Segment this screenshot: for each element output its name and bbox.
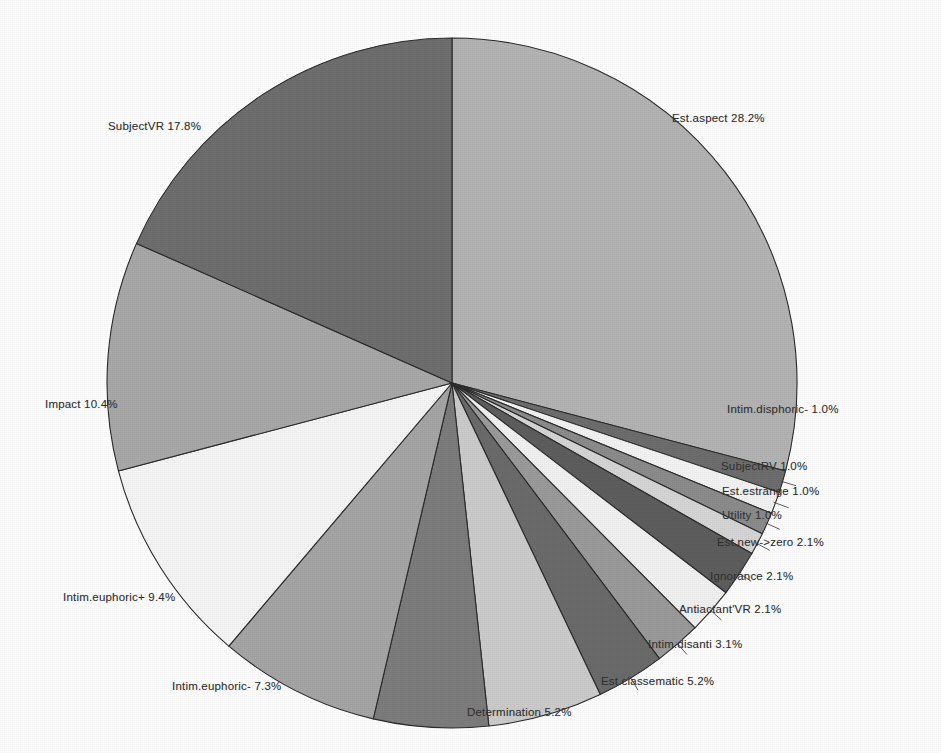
pie-label-intim-disanti: Intim.disanti 3.1%	[648, 639, 742, 651]
pie-label-impact: Impact 10.4%	[45, 399, 118, 411]
pie-label-est-new-zero: Est.new->zero 2.1%	[717, 537, 824, 549]
pie-label-ignorance: Ignorance 2.1%	[710, 571, 793, 583]
pie-label-est-aspect: Est.aspect 28.2%	[672, 113, 765, 125]
pie-label-determination: Determination 5.2%	[467, 707, 572, 719]
pie-chart-figure: Est.aspect 28.2% SubjectVR 17.8% Impact …	[0, 0, 941, 753]
pie-label-est-estrange: Est.estrange 1.0%	[722, 486, 819, 498]
pie-label-est-classematic: Est.classematic 5.2%	[601, 676, 714, 688]
pie-slices-group	[107, 38, 797, 728]
pie-leader-line	[765, 523, 780, 530]
pie-label-utility: Utility 1.0%	[722, 510, 782, 522]
pie-leader-line	[774, 502, 789, 508]
pie-label-intim-euphoric-minus: Intim.euphoric- 7.3%	[172, 681, 281, 693]
pie-chart-canvas	[0, 0, 941, 753]
pie-label-antiactant-vr: Antiactant'VR 2.1%	[679, 604, 781, 616]
pie-label-subject-vr: SubjectVR 17.8%	[108, 121, 201, 133]
pie-label-subject-rv: SubjectRV 1.0%	[721, 461, 807, 473]
pie-label-intim-euphoric-plus: Intim.euphoric+ 9.4%	[63, 592, 175, 604]
pie-label-intim-disphoric-minus: Intim.disphoric- 1.0%	[727, 404, 839, 416]
